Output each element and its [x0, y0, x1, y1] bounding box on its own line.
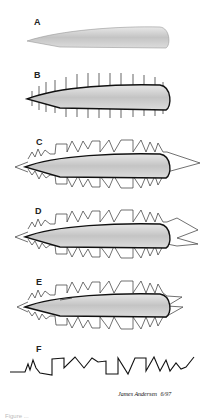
unrolled-zigzag-line — [10, 357, 194, 375]
panel-d: D — [15, 206, 198, 258]
panel-label-d: D — [35, 206, 42, 216]
panel-label-c: C — [36, 137, 43, 147]
panel-f: F — [10, 344, 194, 375]
caption-partial: Figure ... — [5, 413, 29, 419]
airfoil-figure: A B C D — [0, 0, 211, 419]
panel-b: B — [27, 70, 170, 118]
panel-e: E — [17, 277, 183, 329]
panel-label-f: F — [36, 344, 42, 354]
airfoil-shape — [27, 27, 169, 48]
artist-signature: James Andersen 6/97 — [118, 391, 172, 397]
airfoil-outline — [27, 85, 170, 110]
panel-a: A — [27, 17, 169, 48]
panel-c: C — [15, 137, 200, 188]
panel-label-b: B — [34, 70, 41, 80]
panel-label-a: A — [34, 17, 41, 27]
panel-label-e: E — [36, 277, 42, 287]
